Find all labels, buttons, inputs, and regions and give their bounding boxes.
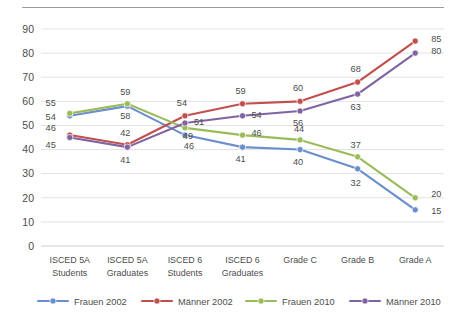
data-point-marker: [297, 98, 303, 104]
chart-canvas: 0102030405060708090ISCED 5AStudentsISCED…: [0, 0, 450, 319]
data-point-marker: [355, 91, 361, 97]
data-point-marker: [412, 50, 418, 56]
data-point-marker: [355, 166, 361, 172]
legend-item-label: Männer 2002: [178, 297, 233, 307]
data-label: 58: [120, 111, 130, 121]
x-axis-tick-label: Students: [167, 268, 203, 278]
data-label: 59: [235, 86, 245, 96]
data-label: 40: [293, 157, 303, 167]
data-label: 54: [177, 98, 187, 108]
legend-marker: [362, 298, 368, 304]
data-label: 42: [120, 128, 130, 138]
data-label: 46: [252, 128, 262, 138]
legend-marker: [50, 298, 56, 304]
data-point-marker: [239, 101, 245, 107]
data-point-marker: [355, 154, 361, 160]
x-axis-tick-label: ISCED 6: [225, 255, 260, 265]
data-point-marker: [297, 137, 303, 143]
y-axis-tick-label: 80: [22, 47, 34, 59]
data-label: 41: [235, 154, 245, 164]
data-label: 68: [351, 64, 361, 74]
y-axis-tick-label: 10: [22, 216, 34, 228]
x-axis-tick-label: ISCED 6: [168, 255, 203, 265]
data-point-marker: [239, 144, 245, 150]
data-label: 80: [431, 46, 441, 56]
y-axis-tick-label: 50: [22, 119, 34, 131]
y-axis-tick-label: 90: [22, 23, 34, 35]
legend-item-label: Frauen 2002: [74, 297, 127, 307]
data-point-marker: [297, 108, 303, 114]
data-point-marker: [67, 134, 73, 140]
data-label: 46: [184, 141, 194, 151]
data-point-marker: [412, 38, 418, 44]
data-label: 59: [120, 87, 130, 97]
x-axis-tick-label: Students: [52, 268, 88, 278]
data-point-marker: [124, 144, 130, 150]
legend-marker: [258, 298, 264, 304]
data-label: 32: [351, 178, 361, 188]
y-axis-tick-label: 40: [22, 143, 34, 155]
top-divider-rule: [22, 7, 444, 8]
x-axis-tick-label: ISCED 5A: [50, 255, 91, 265]
data-point-marker: [239, 132, 245, 138]
data-label: 63: [351, 102, 361, 112]
data-label: 85: [431, 34, 441, 44]
data-point-marker: [355, 79, 361, 85]
data-point-marker: [182, 120, 188, 126]
y-axis-tick-label: 70: [22, 71, 34, 83]
data-label: 54: [252, 110, 262, 120]
data-label: 20: [431, 189, 441, 199]
data-label: 45: [46, 140, 56, 150]
legend-item-label: Frauen 2010: [282, 297, 335, 307]
y-axis-tick-label: 30: [22, 167, 34, 179]
data-label: 49: [183, 131, 193, 141]
data-label: 37: [351, 140, 361, 150]
data-label: 60: [293, 83, 303, 93]
data-label: 46: [46, 123, 56, 133]
data-point-marker: [412, 195, 418, 201]
y-axis-tick-label: 20: [22, 192, 34, 204]
data-label: 55: [46, 98, 56, 108]
data-label: 56: [293, 118, 303, 128]
data-point-marker: [67, 110, 73, 116]
y-axis-tick-label: 60: [22, 95, 34, 107]
x-axis-tick-label: Graduates: [222, 268, 264, 278]
data-label: 15: [431, 206, 441, 216]
data-label: 54: [46, 112, 56, 122]
x-axis-tick-label: Grade C: [283, 255, 317, 265]
y-axis-tick-label: 0: [28, 240, 34, 252]
legend-item-label: Männer 2010: [386, 297, 441, 307]
x-axis-tick-label: ISCED 5A: [107, 255, 148, 265]
data-point-marker: [182, 113, 188, 119]
data-point-marker: [124, 101, 130, 107]
legend-marker: [154, 298, 160, 304]
x-axis-tick-label: Grade B: [341, 255, 374, 265]
line-chart: 0102030405060708090ISCED 5AStudentsISCED…: [0, 0, 450, 319]
x-axis-tick-label: Graduates: [107, 268, 149, 278]
data-point-marker: [412, 207, 418, 213]
data-point-marker: [297, 146, 303, 152]
x-axis-tick-label: Grade A: [399, 255, 432, 265]
data-point-marker: [239, 113, 245, 119]
data-label: 41: [120, 155, 130, 165]
data-label: 51: [194, 117, 204, 127]
